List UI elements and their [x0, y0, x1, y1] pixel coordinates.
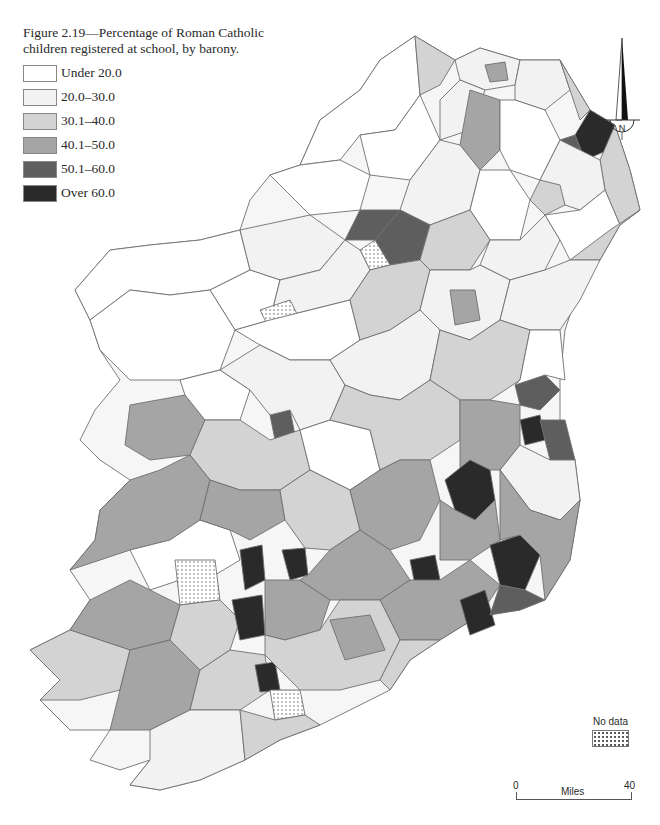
- no-data-label: No data: [592, 716, 629, 727]
- ireland-barony-map: [0, 0, 660, 825]
- scale-unit: Miles: [561, 786, 584, 797]
- no-data-legend: No data: [592, 716, 629, 747]
- scale-start: 0: [513, 780, 519, 791]
- north-arrow-icon: N: [602, 36, 642, 146]
- scale-end: 40: [624, 780, 635, 791]
- no-data-swatch: [592, 730, 629, 747]
- north-label: N: [619, 123, 626, 133]
- north-arrow: N: [602, 36, 642, 150]
